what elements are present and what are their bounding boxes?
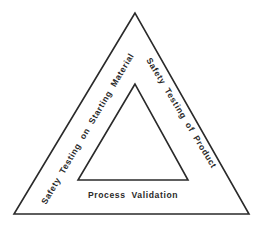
label-starting-material: Safety Testing on Starting Material xyxy=(39,51,136,206)
label-process-validation: Process Validation xyxy=(88,190,178,200)
label-product: Safety Testing of Product xyxy=(144,56,219,170)
safety-triangle-diagram: Safety Testing on Starting Material Safe… xyxy=(0,0,262,229)
